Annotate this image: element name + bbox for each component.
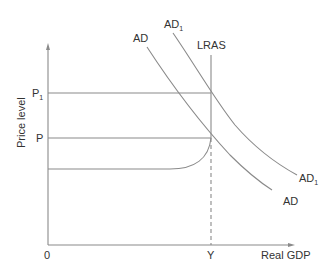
ad-label-bottom: AD	[283, 195, 298, 207]
y-axis-label: Price level	[15, 97, 27, 148]
p-label: P	[36, 132, 43, 144]
ad-as-diagram: AD AD1 LRAS AD1 AD P1 P 0 Y Real GDP Pri…	[0, 0, 333, 272]
ad1-label-bottom: AD1	[299, 172, 318, 186]
ad-label-top: AD	[133, 32, 148, 44]
x-axis-arrow-icon	[288, 243, 295, 247]
origin-label: 0	[44, 249, 50, 261]
x-axis-label: Real GDP	[261, 249, 311, 261]
sras-curve	[48, 138, 211, 169]
ad1-curve	[173, 33, 297, 175]
y-output-label: Y	[207, 249, 215, 261]
lras-label: LRAS	[197, 39, 226, 51]
ad1-label-top: AD1	[164, 18, 183, 32]
y-axis-arrow-icon	[46, 43, 50, 50]
p1-label: P1	[32, 87, 43, 101]
